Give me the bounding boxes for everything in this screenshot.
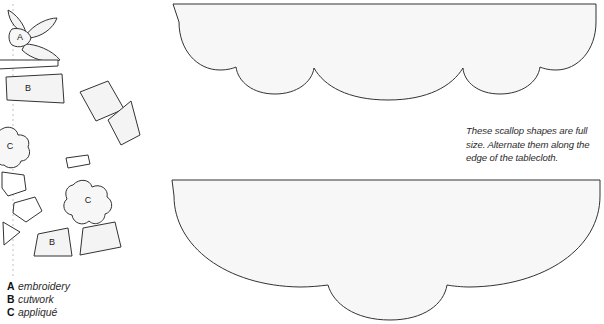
legend-description-a: embroidery (18, 281, 70, 292)
band-lower-2-shape (80, 222, 121, 255)
legend-item-c: C appliqué (7, 307, 147, 320)
legend-key-a: A (7, 281, 17, 292)
motif-leaf-cluster-a: A (8, 10, 60, 61)
band-partial-upper-right-shape (66, 155, 90, 168)
motif-flower-center-c: C (64, 180, 112, 224)
cut-shape-2 (13, 197, 42, 222)
legend-key-b: B (7, 294, 17, 305)
motif-label-a-leaf: A (17, 32, 23, 42)
motif-flower-edge-c: C (0, 127, 30, 168)
scallop-template-top-shape (173, 4, 596, 100)
legend-item-b: B cutwork (7, 294, 147, 307)
pattern-sheet: A B C C (0, 0, 604, 324)
motif-band-group-lower: B (34, 222, 121, 256)
motif-label-b-lower: B (49, 237, 55, 247)
legend-description-b: cutwork (18, 294, 54, 305)
cut-shape-3 (3, 222, 20, 245)
motif-label-b-upper: B (25, 83, 31, 93)
legend-description-c: appliqué (18, 307, 57, 318)
band-upper-1-shape (6, 74, 64, 103)
cut-shape-1 (2, 172, 26, 196)
motif-layout-diagram: A B C C (0, 10, 140, 256)
motif-label-c-center: C (85, 195, 92, 205)
technique-legend: A embroidery B cutwork C appliqué (7, 281, 147, 321)
band-corner-partial-shape (0, 60, 58, 69)
motif-small-cut-shapes (2, 172, 42, 245)
motif-label-c-edge: C (7, 141, 14, 151)
scallop-template-bottom-shape (172, 180, 600, 320)
motif-band-group-upper: B (6, 74, 140, 145)
flower-edge-shape (0, 127, 30, 168)
legend-key-c: C (7, 307, 17, 318)
leaf-upper-right-shape (26, 18, 57, 38)
scallop-note: These scallop shapes are full size. Alte… (466, 124, 596, 165)
legend-item-a: A embroidery (7, 281, 147, 294)
leaf-lower-right-shape (22, 44, 60, 61)
